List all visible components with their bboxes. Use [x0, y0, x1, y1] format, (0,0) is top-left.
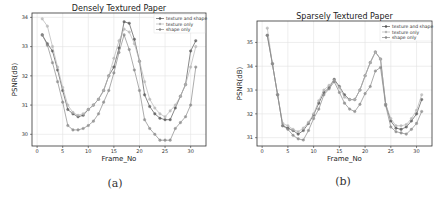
- data-point: [323, 89, 326, 92]
- data-point: [194, 45, 197, 48]
- data-point: [148, 98, 151, 101]
- x-tick-label: 5: [286, 148, 289, 154]
- data-point: [405, 133, 408, 136]
- legend-entry: texture and shape: [166, 16, 207, 21]
- data-point: [415, 113, 418, 116]
- data-point: [297, 133, 300, 136]
- legend: texture and shapetexture onlyshape only: [380, 22, 433, 41]
- data-point: [266, 27, 269, 30]
- data-point: [113, 57, 116, 60]
- chart-a: 0510152025303031323334Densely Textured P…: [11, 4, 207, 191]
- data-point: [118, 39, 121, 42]
- data-point: [169, 118, 172, 121]
- y-axis-label: PSNR(dB): [236, 67, 244, 101]
- data-point: [159, 113, 162, 116]
- data-point: [379, 66, 382, 69]
- data-point: [395, 130, 398, 133]
- data-point: [276, 94, 279, 97]
- data-point: [102, 101, 105, 104]
- x-tick-label: 20: [136, 148, 142, 154]
- data-point: [154, 133, 157, 136]
- data-point: [97, 113, 100, 116]
- data-point: [194, 39, 197, 42]
- data-point: [107, 75, 110, 78]
- legend-entry: shape only: [392, 35, 417, 40]
- data-point: [348, 98, 351, 101]
- data-point: [133, 69, 136, 72]
- data-point: [159, 117, 162, 120]
- data-point: [328, 84, 331, 87]
- data-point: [333, 80, 336, 83]
- data-point: [359, 89, 362, 92]
- x-tick-label: 15: [111, 148, 117, 154]
- x-axis-label: Frame_No: [327, 155, 362, 163]
- y-tick-label: 34: [247, 63, 253, 69]
- data-point: [302, 127, 305, 130]
- legend: texture and shapetexture onlyshape only: [154, 14, 207, 33]
- data-point: [174, 107, 177, 110]
- data-point: [307, 129, 310, 132]
- x-tick-label: 15: [336, 148, 342, 154]
- data-point: [61, 86, 64, 89]
- data-point: [97, 98, 100, 101]
- data-point: [67, 108, 70, 111]
- data-point: [297, 138, 300, 141]
- data-point: [61, 101, 64, 104]
- data-point: [169, 110, 172, 113]
- chart-title: Densely Textured Paper: [72, 4, 167, 13]
- data-point: [395, 124, 398, 127]
- data-point: [281, 124, 284, 127]
- subfigure-caption: (b): [335, 175, 351, 188]
- data-point: [369, 61, 372, 64]
- data-point: [56, 66, 59, 69]
- y-tick-label: 30: [22, 131, 28, 137]
- data-point: [128, 48, 131, 51]
- x-tick-label: 25: [162, 148, 168, 154]
- data-point: [302, 129, 305, 132]
- data-point: [323, 94, 326, 97]
- y-tick-label: 32: [247, 111, 253, 117]
- data-point: [184, 115, 187, 118]
- data-point: [133, 42, 136, 45]
- data-point: [317, 99, 320, 102]
- data-point: [143, 80, 146, 83]
- data-point: [312, 117, 315, 120]
- x-tick-label: 25: [388, 148, 394, 154]
- data-point: [123, 20, 126, 23]
- data-point: [400, 128, 403, 131]
- x-tick-label: 30: [187, 148, 193, 154]
- data-point: [292, 134, 295, 137]
- data-point: [307, 121, 310, 124]
- data-point: [67, 104, 70, 107]
- data-point: [266, 34, 269, 37]
- data-point: [113, 72, 116, 75]
- chart-b: 0510152025303132333435Sparsely Textured …: [236, 12, 433, 189]
- data-point: [51, 45, 54, 48]
- series-line: [42, 19, 196, 117]
- data-point: [148, 127, 151, 130]
- data-point: [123, 28, 126, 31]
- data-point: [384, 104, 387, 107]
- data-point: [179, 121, 182, 124]
- data-point: [379, 58, 382, 61]
- data-point: [128, 31, 131, 34]
- data-point: [328, 88, 331, 91]
- data-point: [189, 50, 192, 53]
- data-point: [82, 113, 85, 116]
- y-tick-label: 31: [22, 102, 28, 108]
- series-line: [267, 28, 421, 132]
- x-tick-label: 5: [61, 148, 64, 154]
- data-point: [169, 139, 172, 142]
- data-point: [410, 117, 413, 120]
- data-point: [82, 127, 85, 130]
- data-point: [374, 51, 377, 54]
- data-point: [410, 128, 413, 131]
- data-point: [390, 117, 393, 120]
- x-axis-label: Frame_No: [102, 155, 137, 163]
- data-point: [92, 120, 95, 123]
- data-point: [395, 127, 398, 130]
- data-point: [67, 124, 70, 127]
- data-point: [343, 102, 346, 105]
- series-line: [42, 35, 196, 140]
- data-point: [72, 111, 75, 114]
